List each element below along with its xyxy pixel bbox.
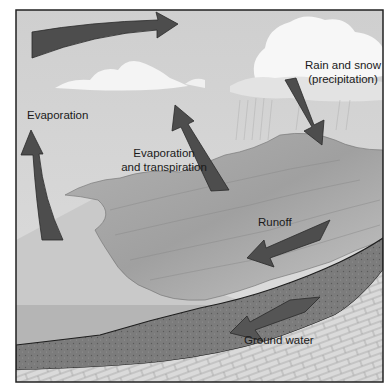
water-cycle-diagram: Evaporation Evaporation and transpiratio…	[0, 0, 391, 390]
label-evaporation-transpiration: Evaporation and transpiration	[103, 146, 225, 174]
label-precipitation-line2: (precipitation)	[300, 72, 386, 86]
label-evaporation: Evaporation	[27, 108, 88, 122]
label-evaporation-transpiration-line2: and transpiration	[103, 160, 225, 174]
label-runoff: Runoff	[258, 215, 292, 229]
label-precipitation-line1: Rain and snow	[300, 58, 386, 72]
label-ground-water: Ground water	[244, 333, 314, 347]
label-precipitation: Rain and snow (precipitation)	[300, 58, 386, 86]
label-evaporation-transpiration-line1: Evaporation	[103, 146, 225, 160]
